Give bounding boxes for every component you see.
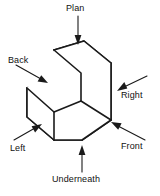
diagram-root: Plan Back Right Left Front Underneath [0, 0, 160, 196]
leader-left [14, 124, 42, 140]
leader-back-line [16, 65, 41, 79]
label-back: Back [8, 55, 28, 65]
label-plan: Plan [66, 3, 84, 13]
label-left: Left [10, 143, 25, 153]
leader-front-line [118, 126, 145, 140]
leader-right [117, 76, 147, 91]
leader-front [111, 122, 145, 140]
leader-plan [75, 16, 82, 45]
leader-right-line [124, 76, 147, 87]
leader-underneath-arrowhead [79, 145, 86, 155]
leader-left-line [14, 128, 35, 140]
label-front: Front [121, 141, 143, 151]
label-underneath: Underneath [52, 174, 100, 184]
leader-front-arrowhead [111, 122, 122, 130]
leader-underneath [79, 145, 86, 172]
label-right: Right [121, 90, 143, 100]
